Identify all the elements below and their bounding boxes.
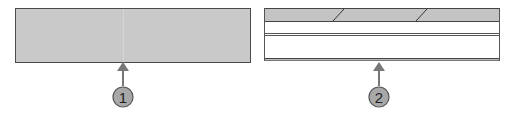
callout-1: 1	[113, 62, 133, 107]
callout-2: 2	[369, 62, 389, 107]
arrow-head-2-icon	[373, 62, 385, 71]
callout-overlay: 1 2	[0, 0, 511, 114]
slash-mark-1	[333, 9, 344, 21]
callout-number-1: 1	[119, 89, 127, 106]
arrow-head-1-icon	[117, 62, 129, 71]
slash-mark-2	[416, 9, 427, 21]
callout-number-2: 2	[375, 89, 383, 106]
